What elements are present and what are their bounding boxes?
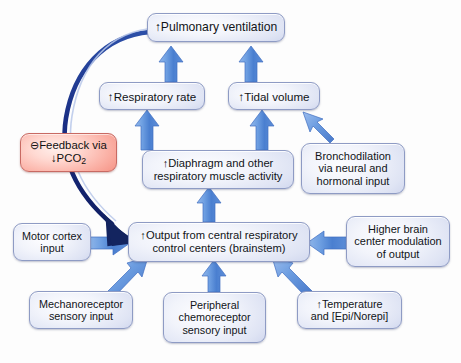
node-mechanoreceptor[interactable]: Mechanoreceptor sensory input [29, 291, 133, 329]
node-label-bronchodilation-line1: Bronchodilation [315, 150, 391, 162]
node-label-diaphragm-line2: respiratory muscle activity [154, 170, 283, 183]
edge-diaphragm-to-tidal-volume [250, 110, 274, 150]
edge-respiratory-rate-to-pulmonary-ventilation [159, 46, 183, 82]
node-label-respiratory-rate: ↑Respiratory rate [108, 90, 196, 103]
node-pulmonary-ventilation[interactable]: ↑Pulmonary ventilation [147, 13, 285, 42]
edge-bronchodilation-to-tidal-volume [303, 112, 334, 143]
node-label-higher-brain-line1: Higher brain [368, 223, 428, 235]
feedback-pco2-subscript: 2 [81, 155, 86, 165]
node-label-central-output-line2: control centers (brainstem) [152, 242, 285, 255]
node-label-peripheral-line2: chemoreceptor [178, 311, 250, 323]
node-label-mechanoreceptor-line1: Mechanoreceptor [39, 298, 123, 310]
node-label-bronchodilation-line2: via neural and [318, 162, 387, 174]
node-feedback-pco2[interactable]: ⊖Feedback via ↓PCO2 [20, 133, 117, 172]
node-label-higher-brain-line2: center modulation [354, 235, 441, 247]
node-label-central-output-line1: ↑Output from central respiratory [140, 229, 297, 242]
node-label-higher-brain-line3: of output [377, 248, 420, 260]
edge-peripheral-chemoreceptor-to-central-output [202, 260, 226, 292]
edge-motor-cortex-to-central-output [88, 231, 130, 255]
node-peripheral-chemoreceptor[interactable]: Peripheral chemoreceptor sensory input [163, 292, 266, 343]
feedback-pco2-prefix: ↓PCO [51, 152, 81, 164]
node-temperature[interactable]: ↑Temperature and [Epi/Norepi] [297, 291, 402, 329]
node-label-pulmonary-ventilation: ↑Pulmonary ventilation [155, 21, 278, 35]
node-bronchodilation[interactable]: Bronchodilation via neural and hormonal … [301, 143, 405, 194]
node-higher-brain[interactable]: Higher brain center modulation of output [346, 216, 450, 267]
edge-temperature-to-central-output [272, 257, 312, 295]
node-label-feedback-line2: ↓PCO2 [51, 152, 86, 167]
node-label-diaphragm-line1: ↑Diaphragm and other [163, 157, 274, 170]
node-label-peripheral-line3: sensory input [182, 324, 246, 336]
node-label-peripheral-line1: Peripheral [190, 299, 239, 311]
node-tidal-volume[interactable]: ↑Tidal volume [228, 82, 320, 110]
edge-diaphragm-to-respiratory-rate [135, 110, 159, 150]
node-label-bronchodilation-line3: hormonal input [317, 175, 390, 187]
node-respiratory-rate[interactable]: ↑Respiratory rate [99, 82, 205, 110]
diagram-canvas: ↑Pulmonary ventilation ↑Respiratory rate… [0, 0, 461, 363]
node-label-mechanoreceptor-line2: sensory input [49, 310, 113, 322]
edge-central-output-to-diaphragm [197, 187, 221, 222]
node-label-motor-cortex-line1: Motor cortex [22, 230, 82, 242]
edge-tidal-volume-to-pulmonary-ventilation [239, 46, 263, 82]
node-label-temperature-line1: ↑Temperature [316, 298, 382, 310]
node-label-temperature-line2: and [Epi/Norepi] [311, 310, 388, 322]
edge-mechanoreceptor-to-central-output [108, 257, 148, 295]
node-diaphragm[interactable]: ↑Diaphragm and other respiratory muscle … [142, 150, 294, 189]
node-label-feedback-line1: ⊖Feedback via [30, 139, 107, 152]
edge-higher-brain-to-central-output [307, 231, 349, 255]
node-label-tidal-volume: ↑Tidal volume [238, 90, 309, 103]
node-central-output[interactable]: ↑Output from central respiratory control… [128, 222, 310, 262]
node-motor-cortex[interactable]: Motor cortex input [13, 223, 91, 261]
node-label-motor-cortex-line2: input [40, 242, 63, 254]
